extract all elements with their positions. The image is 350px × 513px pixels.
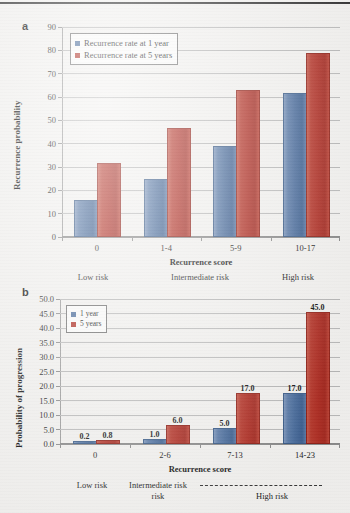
- legend-swatch-red-icon: [71, 322, 76, 327]
- panel-b-risk-group-high: High risk: [256, 491, 288, 502]
- legend-swatch-blue-icon: [75, 41, 80, 46]
- y-axis-tick: [56, 299, 60, 300]
- x-axis-tick: [271, 237, 272, 241]
- bar-7-13-series1: 5.0: [213, 428, 237, 445]
- figure-image: a Recurrence probability 010203040506070…: [0, 0, 350, 513]
- bar-2-6-series1: 1.0: [143, 439, 167, 444]
- bar-2-6-series2: 6.0: [166, 425, 190, 444]
- y-axis-tick-label: 30: [48, 162, 57, 172]
- x-axis-tick-label: 14-23: [295, 450, 315, 460]
- bar-value-label: 6.0: [173, 416, 183, 425]
- panel-b-risk-group-intermediate-line2: risk: [152, 491, 165, 501]
- y-axis-tick-label: 35.0: [39, 338, 54, 348]
- bar-value-label: 0.8: [103, 431, 113, 440]
- panel-a-legend-label-1year: Recurrence rate at 1 year: [84, 37, 169, 49]
- y-axis-tick: [58, 213, 62, 214]
- y-axis-tick: [56, 313, 60, 314]
- x-axis-tick: [60, 444, 61, 448]
- y-axis-tick: [56, 371, 60, 372]
- panel-a-risk-group-high: High risk: [282, 272, 314, 283]
- panel-b-x-axis-title: Recurrence score: [169, 464, 232, 474]
- x-axis-tick-label: 10-17: [295, 243, 315, 253]
- y-axis-tick: [56, 328, 60, 329]
- y-axis-tick: [58, 50, 62, 51]
- bar-7-13-series2: 17.0: [236, 393, 260, 444]
- x-axis-tick: [339, 237, 340, 241]
- x-axis-tick: [62, 237, 63, 241]
- bar-14-23-series1: 17.0: [283, 393, 307, 444]
- y-axis-tick-label: 40.0: [39, 323, 54, 333]
- x-axis-tick-label: 0: [95, 243, 99, 253]
- y-axis-tick-label: 10: [48, 209, 57, 219]
- bar-0-series1: [74, 200, 98, 237]
- y-axis-tick: [56, 342, 60, 343]
- x-axis-tick-label: 5-9: [230, 243, 241, 253]
- panel-b-legend-item-1year: 1 year: [71, 309, 101, 319]
- legend-swatch-red-icon: [75, 53, 80, 58]
- panel-a-risk-group-intermediate: Intermediate risk: [171, 272, 229, 283]
- y-axis-tick-label: 90: [48, 22, 57, 32]
- x-axis-tick: [130, 444, 131, 448]
- bar-1-4-series2: [167, 128, 191, 237]
- y-axis-tick: [58, 27, 62, 28]
- y-axis-tick-label: 10.0: [39, 410, 54, 420]
- legend-swatch-blue-icon: [71, 312, 76, 317]
- panel-b-high-risk-bracket: [200, 485, 322, 486]
- y-axis-tick-label: 45.0: [39, 309, 54, 319]
- x-axis-tick-label: 7-13: [227, 450, 243, 460]
- x-axis-tick: [270, 444, 271, 448]
- y-axis-tick: [58, 120, 62, 121]
- y-axis-tick: [56, 429, 60, 430]
- panel-b-legend-label-1year: 1 year: [80, 309, 99, 319]
- y-axis-tick: [56, 386, 60, 387]
- panel-a-letter: a: [22, 20, 28, 32]
- y-axis-tick-label: 0: [52, 232, 56, 242]
- panel-a-legend-item-5years: Recurrence rate at 5 years: [75, 49, 172, 61]
- panel-b-legend: 1 year 5 years: [66, 305, 107, 333]
- y-axis-tick: [58, 143, 62, 144]
- y-axis-tick: [58, 190, 62, 191]
- y-axis-tick: [58, 73, 62, 74]
- y-axis-tick-label: 70: [48, 69, 57, 79]
- bar-0-series2: [97, 163, 121, 237]
- y-axis-tick: [56, 357, 60, 358]
- gridline: [60, 371, 340, 372]
- gridline: [60, 342, 340, 343]
- bar-0-series1: 0.2: [73, 441, 97, 444]
- y-axis-tick-label: 0.0: [43, 439, 54, 449]
- bar-14-23-series2: 45.0: [306, 312, 330, 445]
- bar-value-label: 1.0: [150, 430, 160, 439]
- bar-value-label: 45.0: [311, 303, 325, 312]
- panel-b-letter: b: [22, 286, 29, 298]
- x-axis-tick: [339, 444, 340, 448]
- gridline: [62, 27, 340, 28]
- gridline: [60, 357, 340, 358]
- x-axis-tick: [132, 237, 133, 241]
- bar-value-label: 17.0: [241, 384, 255, 393]
- panel-a-risk-group-low: Low risk: [78, 272, 108, 283]
- y-axis-tick: [58, 97, 62, 98]
- panel-a-y-axis-title: Recurrence probability: [12, 101, 22, 190]
- panel-a: a Recurrence probability 010203040506070…: [0, 0, 350, 280]
- panel-b-risk-group-intermediate: Intermediate risk risk: [129, 480, 187, 502]
- bar-value-label: 5.0: [220, 419, 230, 428]
- bar-value-label: 0.2: [80, 432, 90, 441]
- panel-b: b Probability of progression 0.05.010.01…: [0, 283, 350, 513]
- panel-b-risk-group-intermediate-line1: Intermediate risk: [129, 480, 187, 490]
- panel-b-risk-group-low: Low risk: [77, 480, 107, 491]
- y-axis-tick-label: 80: [48, 45, 57, 55]
- y-axis-tick-label: 15.0: [39, 396, 54, 406]
- x-axis-tick: [200, 444, 201, 448]
- panel-b-legend-item-5years: 5 years: [71, 319, 101, 329]
- y-axis-tick-label: 50.0: [39, 294, 54, 304]
- x-axis-tick-label: 0: [93, 450, 97, 460]
- panel-a-y-axis-line: [62, 27, 63, 237]
- bar-1-4-series1: [144, 179, 168, 237]
- bar-0-series2: 0.8: [96, 440, 120, 444]
- panel-a-x-axis-title: Recurrence score: [170, 257, 233, 267]
- y-axis-tick-label: 50: [48, 115, 57, 125]
- bar-10-17-series2: [306, 53, 330, 237]
- panel-a-legend: Recurrence rate at 1 year Recurrence rat…: [70, 33, 178, 65]
- x-axis-tick-label: 1-4: [161, 243, 172, 253]
- bar-5-9-series2: [236, 90, 260, 237]
